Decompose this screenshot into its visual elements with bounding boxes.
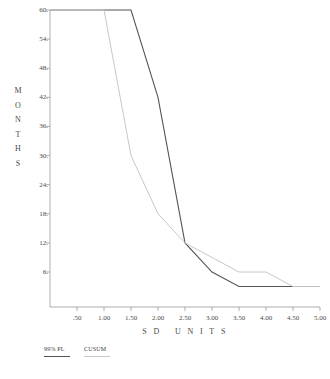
chart-container: MONTHS 6.12.18.24.30.36.42.48.54.60. .50… bbox=[0, 0, 330, 379]
series-line-cusum bbox=[50, 10, 320, 287]
legend-entry: CUSUM bbox=[84, 346, 110, 357]
axis-ticks bbox=[46, 10, 320, 311]
legend-color-swatch bbox=[84, 356, 110, 357]
legend-color-swatch bbox=[44, 356, 70, 357]
legend-entry: 99% PL bbox=[44, 346, 70, 357]
plot-area bbox=[0, 0, 330, 379]
legend-label: CUSUM bbox=[84, 346, 110, 352]
legend-label: 99% PL bbox=[44, 346, 70, 352]
data-series-lines bbox=[50, 10, 320, 287]
axis-lines bbox=[50, 10, 320, 307]
series-line-99-pl bbox=[50, 10, 320, 287]
